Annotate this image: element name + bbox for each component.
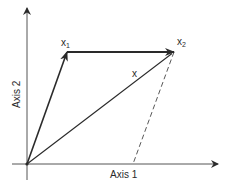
axis-1-label: Axis 1	[110, 169, 138, 180]
vector-x	[27, 54, 172, 165]
projection-dashed-line	[133, 52, 174, 164]
axis-2-label: Axis 2	[11, 80, 22, 108]
vector-diagram: x1 x2 x Axis 1 Axis 2	[0, 0, 232, 185]
label-x1: x1	[61, 37, 70, 49]
label-x: x	[132, 68, 137, 79]
vector-x1	[27, 52, 67, 164]
origin-point	[25, 162, 28, 165]
label-x2: x2	[177, 36, 186, 48]
